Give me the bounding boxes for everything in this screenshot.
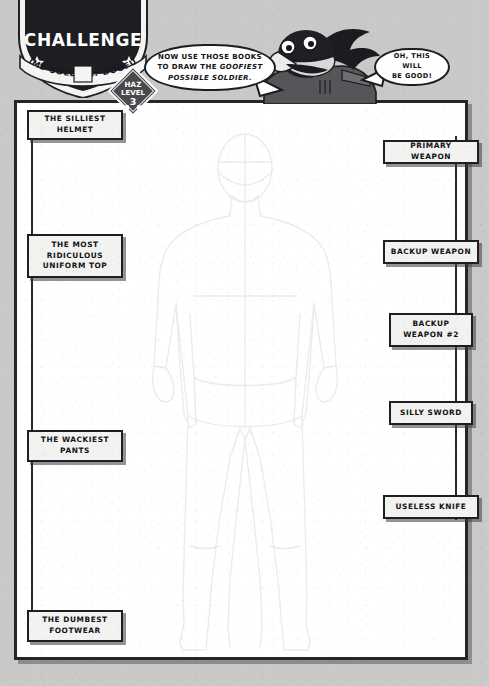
- label-wackiest-pants[interactable]: THE WACKIEST PANTS: [27, 430, 123, 462]
- label-useless-knife[interactable]: USELESS KNIFE: [383, 495, 479, 519]
- label-backup-weapon-2-text: BACKUP WEAPON #2: [403, 319, 459, 340]
- worksheet-page: THE SILLIEST HELMET THE MOST RIDICULOUS …: [0, 0, 489, 686]
- instruction-line3-emphasis: POSSIBLE SOLDIER.: [168, 74, 252, 82]
- label-silly-sword-text: SILLY SWORD: [400, 408, 462, 419]
- speech-balloon-instruction-text: NOW USE THOSE BOOKS TO DRAW THE GOOFIEST…: [150, 52, 269, 84]
- reaction-line1: OH, THIS WILL: [394, 52, 430, 70]
- label-most-ridiculous-uniform-top[interactable]: THE MOST RIDICULOUS UNIFORM TOP: [27, 234, 123, 278]
- instruction-line2-plain: TO DRAW THE: [157, 63, 219, 71]
- label-dumbest-footwear-text: THE DUMBEST FOOTWEAR: [42, 615, 107, 636]
- label-silliest-helmet-text: THE SILLIEST HELMET: [44, 114, 105, 135]
- instruction-line1: NOW USE THOSE BOOKS: [158, 53, 262, 61]
- badge-emblem: [74, 66, 92, 82]
- instruction-line2-emphasis: GOOFIEST: [220, 63, 263, 71]
- hazard-line3: 3: [130, 96, 137, 107]
- label-dumbest-footwear[interactable]: THE DUMBEST FOOTWEAR: [27, 610, 123, 642]
- speech-balloon-reaction: OH, THIS WILL BE GOOD!: [374, 48, 450, 86]
- label-primary-weapon-text: PRIMARY WEAPON: [389, 141, 473, 162]
- speech-balloon-reaction-text: OH, THIS WILL BE GOOD!: [376, 52, 448, 82]
- label-backup-weapon-2[interactable]: BACKUP WEAPON #2: [389, 313, 473, 347]
- label-backup-weapon[interactable]: BACKUP WEAPON: [383, 240, 479, 264]
- label-useless-knife-text: USELESS KNIFE: [396, 502, 467, 513]
- label-primary-weapon[interactable]: PRIMARY WEAPON: [383, 140, 479, 164]
- speech-balloon-instruction: NOW USE THOSE BOOKS TO DRAW THE GOOFIEST…: [144, 44, 276, 91]
- drawing-frame: [14, 100, 468, 660]
- label-backup-weapon-text: BACKUP WEAPON: [391, 247, 471, 258]
- label-wackiest-pants-text: THE WACKIEST PANTS: [41, 435, 109, 456]
- leader-line-left-spine: [31, 118, 33, 642]
- reaction-line2: BE GOOD!: [392, 72, 432, 80]
- label-most-ridiculous-uniform-top-text: THE MOST RIDICULOUS UNIFORM TOP: [43, 240, 108, 272]
- badge-title: CHALLENGE: [24, 30, 142, 50]
- label-silly-sword[interactable]: SILLY SWORD: [389, 401, 473, 425]
- hazard-line1: HAZ: [125, 80, 142, 89]
